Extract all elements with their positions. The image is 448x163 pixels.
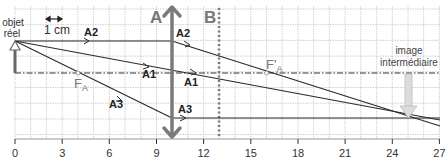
tick-label: 9 <box>153 147 159 159</box>
ray-label-a2-right: A2 <box>176 27 190 39</box>
object-label-line2: réel <box>4 28 21 39</box>
tick-label: 18 <box>292 147 304 159</box>
ray-label-a1-right: A1 <box>184 76 198 88</box>
object-label-line1: objet <box>2 17 24 28</box>
scale-axis <box>15 139 440 144</box>
ray-label-a2-left: A2 <box>84 26 98 38</box>
image-label-line2: intermédiaire <box>380 57 438 68</box>
tick-label: 24 <box>386 147 398 159</box>
tick-label: 27 <box>433 147 445 159</box>
scale-label: 1 cm <box>44 23 70 37</box>
tick-label: 21 <box>339 147 351 159</box>
focal-object-label: FA <box>74 76 88 93</box>
ray-label-a1-left: A1 <box>142 68 156 80</box>
object-arrow <box>10 41 20 73</box>
tick-label: 15 <box>245 147 257 159</box>
intermediate-image-arrow <box>400 74 417 118</box>
axis-tick-labels: 0 3 6 9 12 15 18 21 24 27 <box>12 147 446 159</box>
tick-label: 6 <box>106 147 112 159</box>
lens-a-label: A <box>150 8 162 27</box>
ray-label-a3-right: A3 <box>178 103 192 115</box>
tick-label: 0 <box>12 147 18 159</box>
scale-indicator <box>46 17 62 22</box>
ray-diagram: 0 3 6 9 12 15 18 21 24 27 <box>0 0 448 163</box>
tick-label: 3 <box>59 147 65 159</box>
focal-image-label: F'A <box>266 57 282 74</box>
ray-label-a3-left: A3 <box>109 98 123 110</box>
tick-label: 12 <box>197 147 209 159</box>
lens-b-label: B <box>204 8 216 27</box>
focal-point-object <box>76 71 80 75</box>
image-label-line1: image <box>395 45 423 56</box>
